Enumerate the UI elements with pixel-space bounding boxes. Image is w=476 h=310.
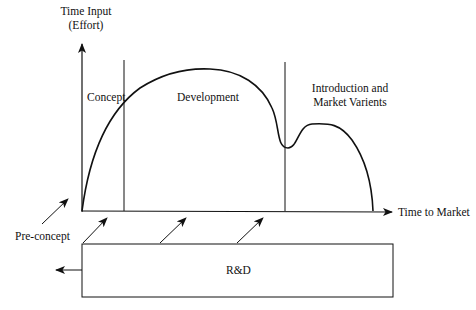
pre-concept-label: Pre-concept — [15, 229, 70, 243]
rd-box-label: R&D — [226, 263, 251, 277]
phase-label-introduction-line2: Market Varients — [300, 95, 400, 109]
y-axis-label: Time Input (Effort) — [56, 4, 116, 32]
phase-label-introduction: Introduction and Market Varients — [300, 81, 400, 109]
phase-label-development: Development — [177, 90, 239, 104]
rd-arrow-3 — [237, 218, 263, 243]
x-axis — [82, 211, 392, 212]
rd-arrow-1 — [83, 218, 107, 243]
rd-arrow-2 — [160, 218, 186, 243]
y-axis-label-line1: Time Input — [56, 4, 116, 18]
phase-label-introduction-line1: Introduction and — [300, 81, 400, 95]
x-axis-label: Time to Market — [398, 205, 470, 219]
phase-label-concept: Concept — [87, 90, 125, 104]
product-development-effort-diagram: Time Input (Effort) Concept Development … — [0, 0, 476, 310]
y-axis-label-line2: (Effort) — [56, 18, 116, 32]
pre-concept-arrow — [42, 199, 68, 224]
